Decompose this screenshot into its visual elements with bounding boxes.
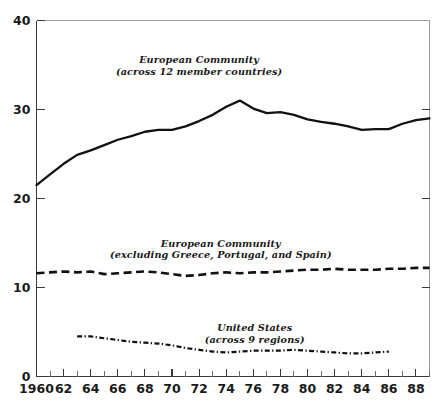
chart-figure: 010203040 196062646668707274767880828486…: [0, 0, 445, 416]
x-tick-label: 82: [326, 381, 343, 396]
x-tick-label: 72: [190, 381, 207, 396]
x-tick-label: 68: [136, 381, 153, 396]
series-annotation-3-line-1: United States: [217, 322, 293, 333]
x-tick-label: 84: [353, 381, 371, 396]
y-tick-label: 10: [13, 280, 31, 295]
x-tick-label: 1960: [19, 381, 54, 396]
y-tick-label: 40: [13, 13, 31, 28]
y-tick-group-right: [422, 110, 430, 288]
x-tick-label: 66: [109, 381, 127, 396]
x-tick-label: 76: [245, 381, 263, 396]
y-tick-group: [37, 21, 45, 377]
x-tick-label: 78: [272, 381, 289, 396]
x-tick-label: 70: [163, 381, 181, 396]
series-annotation-2-line-2: (excluding Greece, Portugal, and Spain): [110, 249, 332, 260]
x-tick-label: 80: [299, 381, 317, 396]
y-tick-label-group: 010203040: [13, 13, 31, 384]
series-annotation-1-line-1: European Community: [138, 54, 260, 65]
series-line-1: [37, 101, 430, 186]
series-line-2: [37, 268, 430, 276]
x-tick-group: [37, 369, 430, 377]
series-annotation-1-line-2: (across 12 member countries): [116, 66, 282, 77]
y-tick-label: 20: [13, 191, 31, 206]
series-annotation-2-line-1: European Community: [160, 238, 282, 249]
x-tick-label: 64: [82, 381, 100, 396]
y-tick-label: 30: [13, 102, 31, 117]
x-tick-label: 86: [380, 381, 398, 396]
x-tick-label: 74: [218, 381, 236, 396]
data-series-group: [37, 101, 430, 354]
x-tick-label: 62: [55, 381, 72, 396]
x-tick-label-group: 19606264666870727476788082848688: [19, 381, 425, 396]
series-annotation-3-line-2: (across 9 regions): [205, 334, 305, 345]
line-chart-svg: 010203040 196062646668707274767880828486…: [0, 0, 445, 416]
x-tick-label: 88: [407, 381, 424, 396]
series-annotation-group: European Community(across 12 member coun…: [110, 54, 332, 344]
